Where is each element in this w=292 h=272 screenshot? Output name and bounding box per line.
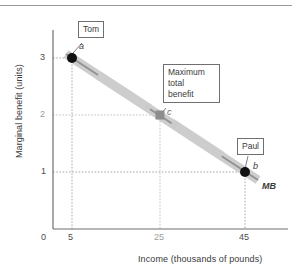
y-tick-label-3: 3 xyxy=(40,52,45,62)
mb-curve-label: MB xyxy=(262,181,276,191)
maximum-callout-line-3: benefit xyxy=(168,89,194,99)
y-axis-title: Marginal benefit (units) xyxy=(14,64,24,158)
arrow-b-to-c xyxy=(172,123,222,156)
x-tick-label-0: 0 xyxy=(41,232,46,242)
point-label-a: a xyxy=(79,41,84,51)
point-label-b: b xyxy=(253,161,258,171)
point-label-c: c xyxy=(167,107,172,117)
y-tick-label-2: 2 xyxy=(40,109,45,119)
x-tick-label-45: 45 xyxy=(239,232,249,242)
paul-callout-box[interactable]: Paul xyxy=(237,138,264,155)
x-tick-label-5: 5 xyxy=(68,232,73,242)
figure-canvas: Marginal benefit (units) Income (thousan… xyxy=(0,0,292,272)
arrow-a-to-c xyxy=(98,75,150,109)
tom-callout-box[interactable]: Tom xyxy=(78,21,104,38)
data-point-b[interactable] xyxy=(240,167,250,177)
data-point-a[interactable] xyxy=(67,53,77,63)
y-tick-label-1: 1 xyxy=(41,166,46,176)
data-point-c[interactable] xyxy=(156,111,165,120)
x-tick-label-25: 25 xyxy=(154,232,164,242)
maximum-callout-line-1: Maximum xyxy=(168,67,205,77)
maximum-callout-line-2: total xyxy=(168,78,184,88)
x-axis-title: Income (thousands of pounds) xyxy=(138,254,262,264)
maximum-total-benefit-callout-box[interactable]: Maximum total benefit xyxy=(163,64,220,103)
